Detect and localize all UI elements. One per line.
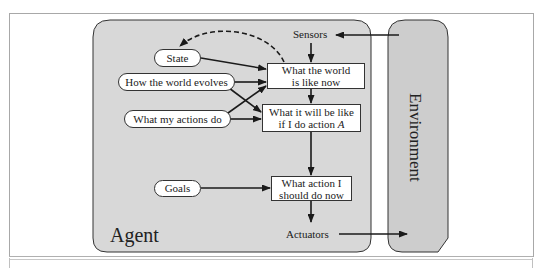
- oval-goals-label: Goals: [165, 182, 191, 194]
- agent-region: [93, 20, 371, 252]
- box-will-be: What it will be like if I do action A: [262, 104, 361, 132]
- agent-label: Agent: [110, 224, 159, 247]
- box-will-be-line2: if I do action A: [263, 118, 360, 130]
- box-world-now-line2: is like now: [268, 76, 364, 88]
- oval-actions-do-label: What my actions do: [133, 113, 221, 125]
- oval-goals: Goals: [154, 180, 201, 197]
- box-will-be-line2-prefix: if I do action: [279, 118, 338, 130]
- box-world-now-line1: What the world: [268, 64, 364, 76]
- box-will-be-action-var: A: [338, 118, 345, 130]
- box-world-now: What the world is like now: [267, 63, 365, 89]
- box-action-line2: should do now: [272, 189, 351, 201]
- box-action-line1: What action I: [272, 177, 351, 189]
- environment-label: Environment: [405, 93, 425, 182]
- box-will-be-line1: What it will be like: [263, 106, 360, 118]
- actuators-label: Actuators: [286, 228, 329, 241]
- oval-world-evolves: How the world evolves: [118, 73, 235, 91]
- diagram-canvas: [0, 0, 541, 268]
- oval-world-evolves-label: How the world evolves: [125, 76, 227, 88]
- oval-actions-do: What my actions do: [124, 110, 231, 128]
- sensors-label: Sensors: [293, 28, 327, 41]
- oval-state: State: [154, 49, 201, 67]
- box-action: What action I should do now: [271, 176, 352, 201]
- oval-state-label: State: [167, 52, 189, 64]
